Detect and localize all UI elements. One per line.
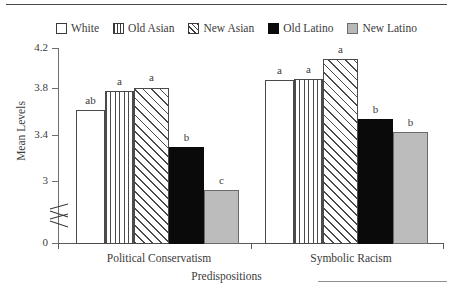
legend-label-old-latino: Old Latino xyxy=(283,22,333,34)
legend-label-new-asian: New Asian xyxy=(203,22,254,34)
legend-label-new-latino: New Latino xyxy=(362,22,417,34)
plot-area: ab a a b c a a a b b xyxy=(58,40,444,244)
figure-bar-chart: White Old Asian New Asian Old Latino New… xyxy=(0,0,453,295)
sig-label-g2-new-asian: a xyxy=(323,44,358,55)
legend-item-old-latino: Old Latino xyxy=(268,22,333,34)
legend-item-new-asian: New Asian xyxy=(188,22,254,34)
legend-swatch-solid-black-icon xyxy=(268,23,279,34)
bar-g1-new-asian xyxy=(134,88,169,244)
legend-item-new-latino: New Latino xyxy=(347,22,417,34)
bar-g1-white xyxy=(76,110,105,244)
legend-swatch-solid-gray-icon xyxy=(347,23,358,34)
bar-g1-old-latino xyxy=(169,147,204,244)
legend-label-old-asian: Old Asian xyxy=(128,22,174,34)
y-tick-label-3-8: 3.8 xyxy=(8,82,48,93)
sig-label-g1-old-latino: b xyxy=(169,132,204,143)
sig-label-g1-new-asian: a xyxy=(134,72,169,83)
y-tick-label-4-2: 4.2 xyxy=(8,42,48,53)
legend-item-old-asian: Old Asian xyxy=(113,22,174,34)
bar-g1-new-latino xyxy=(204,190,239,244)
x-category-label-political-conservatism: Political Conservatism xyxy=(64,252,254,264)
bar-g2-white xyxy=(265,80,294,244)
y-tick-label-3: 3 xyxy=(8,175,48,186)
x-category-label-symbolic-racism: Symbolic Racism xyxy=(256,252,446,264)
bar-g1-old-asian xyxy=(105,91,134,244)
bar-g2-new-latino xyxy=(393,132,428,244)
x-axis-title: Predispositions xyxy=(0,270,453,282)
y-tick-label-0: 0 xyxy=(8,237,48,248)
sig-label-g1-old-asian: a xyxy=(105,76,134,87)
legend-label-white: White xyxy=(71,22,99,34)
legend-swatch-diagonal-hatch-icon xyxy=(188,23,199,34)
bar-g2-old-asian xyxy=(294,79,323,244)
top-divider xyxy=(6,4,447,5)
chart-legend: White Old Asian New Asian Old Latino New… xyxy=(56,19,446,37)
legend-item-white: White xyxy=(56,22,99,34)
legend-swatch-white-icon xyxy=(56,23,67,34)
y-tick-label-3-4: 3.4 xyxy=(8,129,48,140)
sig-label-g2-white: a xyxy=(265,65,294,76)
legend-swatch-vertical-lines-icon xyxy=(113,23,124,34)
bar-g2-old-latino xyxy=(358,119,393,244)
sig-label-g2-old-latino: b xyxy=(358,104,393,115)
sig-label-g1-white: ab xyxy=(76,95,105,106)
bar-g2-new-asian xyxy=(323,59,358,244)
sig-label-g2-old-asian: a xyxy=(294,64,323,75)
sig-label-g2-new-latino: b xyxy=(393,117,428,128)
sig-label-g1-new-latino: c xyxy=(204,175,239,186)
